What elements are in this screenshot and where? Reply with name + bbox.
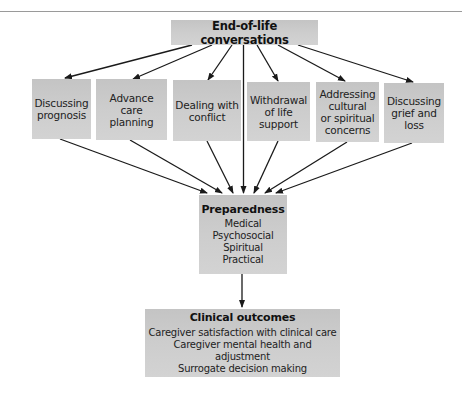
topic-label-line: Withdrawal [248, 94, 309, 106]
topic-label-line: prognosis [35, 109, 88, 121]
topic-label-line: cultural [326, 100, 368, 112]
arrow-grief-to-preparedness [276, 143, 412, 193]
arrow-withdrawal-to-preparedness [254, 141, 278, 193]
preparedness-title: Preparedness [202, 203, 285, 216]
end-of-life-conversations-title: End-of-life conversations [171, 19, 318, 47]
preparedness-box: Preparedness Medical Psychosocial Spirit… [199, 195, 287, 274]
topic-box-withdrawal-of-life-support: Withdrawal of life support [247, 82, 310, 141]
arrow-cultural-to-preparedness [265, 142, 347, 193]
clinical-outcome-item: Surrogate decision making [178, 363, 307, 375]
topic-label-line: concerns [323, 124, 373, 136]
arrow-top-to-cultural [278, 45, 345, 81]
clinical-outcome-item: Caregiver satisfaction with clinical car… [149, 327, 337, 339]
clinical-outcome-item: Caregiver mental health and adjustment [145, 339, 340, 363]
topic-label-line: Dealing with [173, 99, 240, 111]
arrow-prognosis-to-preparedness [60, 139, 207, 193]
arrow-top-to-withdrawal [257, 45, 278, 81]
arrow-conflict-to-preparedness [207, 141, 233, 193]
topic-box-discussing-prognosis: Discussing prognosis [32, 79, 91, 139]
topic-box-addressing-cultural-spiritual-concerns: Addressing cultural or spiritual concern… [316, 82, 379, 142]
end-of-life-conversations-box: End-of-life conversations [171, 20, 318, 45]
topic-label-line: support [257, 118, 300, 130]
topic-label-line: grief and [389, 107, 438, 119]
topic-box-dealing-with-conflict: Dealing with conflict [173, 80, 241, 141]
topic-label-line: Discussing [385, 95, 443, 107]
preparedness-item: Psychosocial [212, 230, 273, 242]
arrow-top-to-grief [298, 45, 413, 82]
clinical-outcomes-box: Clinical outcomes Caregiver satisfaction… [145, 309, 340, 377]
preparedness-item: Practical [223, 254, 264, 266]
arrow-top-to-conflict [208, 45, 232, 80]
topic-label-line: Advance care [96, 92, 167, 116]
topic-label-line: Addressing [317, 88, 377, 100]
topic-box-discussing-grief-and-loss: Discussing grief and loss [384, 83, 444, 143]
topic-box-advance-care-planning: Advance care planning [96, 79, 167, 140]
topic-label-line: planning [108, 116, 156, 128]
preparedness-item: Medical [225, 218, 262, 230]
topic-label-line: Discussing [32, 97, 90, 109]
topic-label-line: or spiritual [318, 112, 376, 124]
preparedness-item: Spiritual [223, 242, 263, 254]
arrow-advance-care-to-preparedness [130, 140, 222, 193]
topic-label-line: conflict [187, 111, 228, 123]
topic-label-line: of life [262, 106, 294, 118]
clinical-outcomes-title: Clinical outcomes [190, 311, 296, 324]
topic-label-line: loss [402, 119, 425, 131]
